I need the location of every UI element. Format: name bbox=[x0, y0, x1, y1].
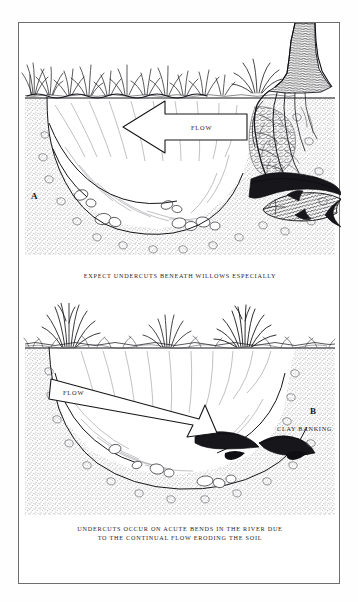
grass-tuft-left-b bbox=[42, 303, 100, 347]
panel-b-caption-line-2: TO THE CONTINUAL FLOW ERODING THE SOIL bbox=[19, 534, 341, 543]
grass-tuft-right-b bbox=[214, 305, 276, 347]
panel-b-caption-line-1: UNDERCUTS OCCUR ON ACUTE BENDS IN THE RI… bbox=[19, 525, 341, 534]
panel-b: FLOW B CLAY BANKING UNDERCUTS OCCUR ON A… bbox=[19, 303, 341, 583]
panel-b-illustration: FLOW bbox=[19, 303, 341, 543]
panel-b-caption: UNDERCUTS OCCUR ON ACUTE BENDS IN THE RI… bbox=[19, 525, 341, 542]
panel-a: FLOW A EXPECT UNDERCUTS BENEATH WILLOWS … bbox=[19, 23, 341, 303]
clay-banking-label: CLAY BANKING bbox=[277, 425, 332, 432]
flow-label-b: FLOW bbox=[63, 389, 84, 396]
flow-label-a: FLOW bbox=[191, 124, 212, 131]
figure-frame: FLOW A EXPECT UNDERCUTS BENEATH WILLOWS … bbox=[18, 22, 340, 584]
panel-a-caption: EXPECT UNDERCUTS BENEATH WILLOWS ESPECIA… bbox=[19, 272, 341, 281]
figure-page: FLOW A EXPECT UNDERCUTS BENEATH WILLOWS … bbox=[0, 0, 358, 602]
panel-a-illustration: FLOW bbox=[19, 23, 341, 273]
panel-letter-b: B bbox=[310, 406, 316, 416]
willow-tree-trunk-a bbox=[269, 23, 332, 93]
panel-letter-a: A bbox=[31, 191, 38, 201]
grass-tuft-middle-b bbox=[143, 315, 191, 347]
grass-tufts-a bbox=[22, 63, 235, 98]
